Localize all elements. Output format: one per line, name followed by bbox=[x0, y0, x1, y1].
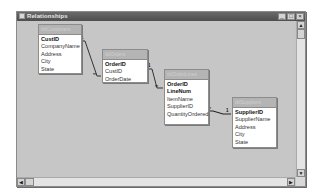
table-suppliers[interactable]: tblSuppliers SupplierID SupplierName Add… bbox=[232, 97, 277, 148]
cardinality-one-label: 1 bbox=[226, 108, 229, 113]
vertical-scrollbar[interactable]: ▲ ▼ bbox=[296, 21, 305, 177]
vertical-scroll-thumb[interactable] bbox=[297, 29, 305, 39]
relationships-canvas[interactable]: 1 ∞ 1 ∞ ∞ 1 tblCustomers CustID CompanyN… bbox=[17, 21, 295, 177]
relationship-line-customers-orders bbox=[80, 41, 101, 76]
field-item[interactable]: State bbox=[41, 66, 79, 73]
field-item[interactable]: LineNum bbox=[167, 88, 206, 95]
field-item[interactable]: QuantityOrdered bbox=[167, 111, 206, 118]
cardinality-many-label: ∞ bbox=[93, 71, 96, 76]
horizontal-scrollbar[interactable]: ◀ ▶ bbox=[17, 177, 295, 186]
field-item[interactable]: Address bbox=[235, 124, 274, 131]
cardinality-one-label: 1 bbox=[148, 63, 151, 68]
horizontal-scroll-thumb[interactable] bbox=[25, 178, 34, 186]
relationships-window-icon[interactable] bbox=[19, 13, 25, 19]
scroll-left-button[interactable]: ◀ bbox=[17, 178, 25, 186]
relationships-window: Relationships _ □ × 1 ∞ 1 ∞ ∞ 1 tblCusto… bbox=[16, 11, 306, 187]
table-customers[interactable]: tblCustomers CustID CompanyName Address … bbox=[38, 24, 82, 74]
field-item[interactable]: CustID bbox=[105, 68, 145, 75]
table-title[interactable]: tblOrders bbox=[103, 50, 147, 60]
field-item[interactable]: OrderID bbox=[105, 61, 145, 68]
field-item[interactable]: City bbox=[41, 58, 79, 65]
field-item[interactable]: State bbox=[235, 139, 274, 146]
table-orderlines[interactable]: tblOrderLines OrderID LineNum ItemName S… bbox=[164, 69, 209, 125]
cardinality-many-label: ∞ bbox=[155, 83, 158, 88]
field-item[interactable]: SupplierName bbox=[235, 116, 274, 123]
table-orders[interactable]: tblOrders OrderID CustID OrderDate bbox=[102, 49, 148, 83]
field-item[interactable]: OrderDate bbox=[105, 76, 145, 83]
scroll-up-button[interactable]: ▲ bbox=[297, 21, 305, 29]
field-item[interactable]: SupplierID bbox=[235, 109, 274, 116]
table-title[interactable]: tblCustomers bbox=[39, 25, 81, 35]
table-title[interactable]: tblOrderLines bbox=[165, 70, 208, 80]
minimize-button[interactable]: _ bbox=[278, 13, 286, 20]
close-button[interactable]: × bbox=[296, 13, 304, 20]
scroll-right-button[interactable]: ▶ bbox=[287, 178, 295, 186]
field-item[interactable]: City bbox=[235, 131, 274, 138]
window-title: Relationships bbox=[27, 12, 68, 21]
maximize-button[interactable]: □ bbox=[287, 13, 295, 20]
field-item[interactable]: Address bbox=[41, 51, 79, 58]
title-bar[interactable]: Relationships _ □ × bbox=[17, 12, 305, 21]
size-grip[interactable] bbox=[296, 177, 305, 186]
scroll-down-button[interactable]: ▼ bbox=[297, 169, 305, 177]
field-item[interactable]: SupplierID bbox=[167, 103, 206, 110]
field-item[interactable]: OrderID bbox=[167, 81, 206, 88]
table-title[interactable]: tblSuppliers bbox=[233, 98, 276, 108]
field-item[interactable]: ItemName bbox=[167, 96, 206, 103]
field-item[interactable]: CustID bbox=[41, 36, 79, 43]
field-item[interactable]: CompanyName bbox=[41, 43, 79, 50]
